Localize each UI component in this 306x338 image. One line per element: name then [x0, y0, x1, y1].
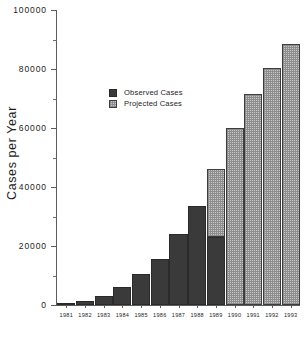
bar-group[interactable]	[244, 10, 262, 305]
x-tick-mark	[179, 305, 180, 308]
plot-area	[57, 10, 300, 305]
x-tick-label: 1984	[116, 313, 129, 319]
x-axis-line	[56, 305, 300, 306]
y-tick-label: 40000	[19, 183, 47, 192]
bar-group[interactable]	[169, 10, 187, 305]
x-tick-mark	[272, 305, 273, 308]
bar-group[interactable]	[113, 10, 131, 305]
bar-group[interactable]	[207, 10, 225, 305]
x-tick-label: 1987	[172, 313, 185, 319]
bar-group[interactable]	[226, 10, 244, 305]
bar-group[interactable]	[188, 10, 206, 305]
y-axis-title: Cases per Year	[2, 0, 22, 306]
bar-segment-projected[interactable]	[282, 44, 300, 305]
bar-segment-observed[interactable]	[132, 274, 150, 305]
bar-group[interactable]	[57, 10, 75, 305]
y-tick-label: 80000	[19, 65, 47, 74]
x-tick-label: 1981	[60, 313, 73, 319]
x-tick-label: 1992	[265, 313, 278, 319]
x-tick-mark	[160, 305, 161, 308]
x-tick-label: 1990	[228, 313, 241, 319]
x-tick-label: 1982	[78, 313, 91, 319]
x-tick-mark	[197, 305, 198, 308]
x-tick-mark	[122, 305, 123, 308]
x-tick-mark	[291, 305, 292, 308]
x-tick-label: 1993	[284, 313, 297, 319]
bar-segment-projected[interactable]	[244, 94, 262, 305]
x-tick-mark	[253, 305, 254, 308]
bar-segment-observed[interactable]	[207, 237, 225, 305]
bar-segment-observed[interactable]	[169, 234, 187, 305]
x-tick-mark	[104, 305, 105, 308]
chart-legend: Observed CasesProjected Cases	[109, 88, 183, 110]
bar-segment-projected[interactable]	[207, 169, 225, 237]
bar-segment-observed[interactable]	[95, 296, 113, 305]
legend-item[interactable]: Projected Cases	[109, 99, 183, 108]
legend-swatch-projected-icon	[109, 100, 117, 108]
bar-segment-observed[interactable]	[188, 206, 206, 305]
legend-swatch-observed-icon	[109, 89, 117, 97]
bar-segment-projected[interactable]	[263, 68, 281, 305]
x-tick-label: 1983	[97, 313, 110, 319]
y-tick-label: 0	[41, 301, 47, 310]
bar-segment-observed[interactable]	[151, 259, 169, 305]
y-tick-label: 100000	[13, 6, 47, 15]
bar-segment-projected[interactable]	[226, 128, 244, 305]
y-tick-label: 20000	[19, 242, 47, 251]
y-tick-label: 60000	[19, 124, 47, 133]
x-tick-label: 1989	[209, 313, 222, 319]
bar-group[interactable]	[95, 10, 113, 305]
bar-group[interactable]	[263, 10, 281, 305]
x-tick-mark	[66, 305, 67, 308]
x-tick-mark	[235, 305, 236, 308]
y-axis-title-label: Cases per Year	[5, 106, 19, 200]
bar-group[interactable]	[282, 10, 300, 305]
bar-chart: Cases per Year 0200004000060000800001000…	[0, 0, 306, 338]
x-tick-mark	[85, 305, 86, 308]
x-tick-label: 1985	[134, 313, 147, 319]
legend-item[interactable]: Observed Cases	[109, 88, 183, 97]
bar-segment-observed[interactable]	[113, 287, 131, 305]
legend-item-label: Observed Cases	[124, 88, 183, 97]
legend-item-label: Projected Cases	[124, 99, 182, 108]
x-tick-label: 1988	[190, 313, 203, 319]
bar-group[interactable]	[151, 10, 169, 305]
bar-group[interactable]	[132, 10, 150, 305]
x-tick-label: 1991	[247, 313, 260, 319]
x-tick-mark	[216, 305, 217, 308]
x-tick-label: 1986	[153, 313, 166, 319]
y-tick-mark	[51, 305, 57, 306]
x-tick-mark	[141, 305, 142, 308]
bar-group[interactable]	[76, 10, 94, 305]
